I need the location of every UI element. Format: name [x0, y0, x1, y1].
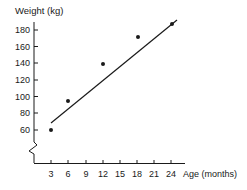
- x-tick-labels: 3 6 9 12 15 18 21 24: [48, 169, 176, 179]
- x-tick-9: 9: [83, 169, 88, 179]
- y-tick-160: 160: [15, 42, 30, 52]
- y-tick-120: 120: [15, 75, 30, 85]
- y-tick-180: 180: [15, 25, 30, 35]
- y-tick-labels: 180 160 140 120 100 80 60: [15, 25, 30, 135]
- data-point: [101, 62, 105, 66]
- y-tick-100: 100: [15, 92, 30, 102]
- x-tick-15: 15: [115, 169, 125, 179]
- y-axis: [29, 22, 38, 163]
- data-point: [136, 35, 140, 39]
- x-tick-12: 12: [98, 169, 108, 179]
- x-tick-3: 3: [48, 169, 53, 179]
- x-tick-24: 24: [166, 169, 176, 179]
- best-fit-line: [51, 20, 177, 123]
- y-tick-140: 140: [15, 58, 30, 68]
- y-tick-80: 80: [20, 108, 30, 118]
- x-axis: [34, 160, 185, 164]
- data-point: [170, 22, 174, 26]
- x-axis-label: Age (months): [183, 169, 237, 179]
- data-point: [66, 99, 70, 103]
- y-axis-label: Weight (kg): [15, 5, 63, 16]
- x-tick-18: 18: [132, 169, 142, 179]
- scatter-chart: Weight (kg) 180 160 140 120 100 80 60: [0, 0, 247, 190]
- x-tick-21: 21: [149, 169, 159, 179]
- x-tick-6: 6: [65, 169, 70, 179]
- y-tick-60: 60: [20, 125, 30, 135]
- data-point: [49, 128, 53, 132]
